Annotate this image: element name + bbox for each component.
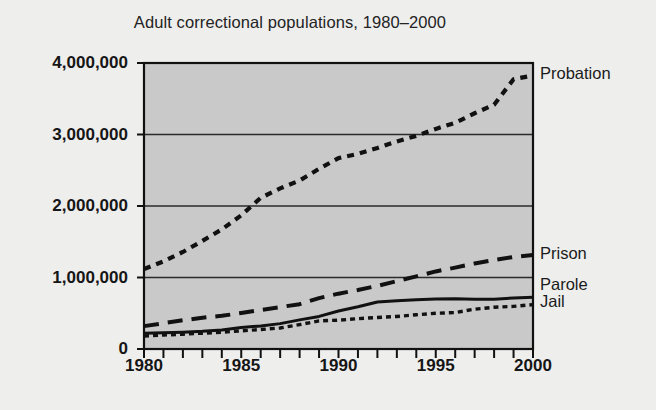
y-axis-label-2000000: 2,000,000 [0, 196, 128, 216]
series-label-prison: Prison [540, 244, 587, 263]
x-axis-label-1995: 1995 [396, 356, 476, 376]
y-axis-label-3000000: 3,000,000 [0, 125, 128, 145]
x-axis-label-1980: 1980 [104, 356, 184, 376]
x-axis-label-1990: 1990 [299, 356, 379, 376]
x-axis-label-2000: 2000 [493, 356, 573, 376]
series-label-parole: Parole [540, 275, 588, 294]
chart-page: Adult correctional populations, 1980–200… [0, 0, 656, 410]
x-axis-label-1985: 1985 [201, 356, 281, 376]
y-axis-label-4000000: 4,000,000 [0, 53, 128, 73]
series-label-jail: Jail [540, 292, 565, 311]
series-label-probation: Probation [540, 64, 611, 83]
y-axis-label-1000000: 1,000,000 [0, 268, 128, 288]
